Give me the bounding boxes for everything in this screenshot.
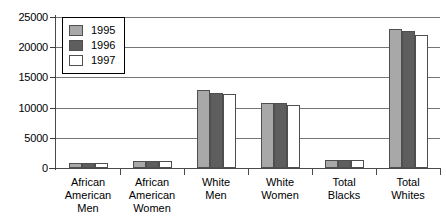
x-axis-category-label-line: White xyxy=(248,176,312,189)
x-axis-category-labels: AfricanAmericanMenAfricanAmericanWomenWh… xyxy=(0,176,446,222)
chart-legend: 199519961997 xyxy=(62,17,125,74)
bar-group xyxy=(261,17,300,168)
x-axis-category-label-line: Total xyxy=(312,176,376,189)
y-axis-tick-mark xyxy=(50,17,56,18)
legend-swatch-1997 xyxy=(69,55,83,66)
bar xyxy=(69,163,82,168)
x-axis-tick-mark xyxy=(184,169,185,175)
x-axis-category-label-line: Men xyxy=(184,189,248,202)
bar-group xyxy=(389,17,428,168)
x-axis-category-label: TotalBlacks xyxy=(312,176,376,202)
legend-item-label: 1996 xyxy=(91,40,115,51)
y-axis-tick-mark xyxy=(50,138,56,139)
bar xyxy=(261,103,274,168)
bar-group xyxy=(197,17,236,168)
x-axis-tick-mark xyxy=(312,169,313,175)
y-axis-tick-label: 25000 xyxy=(0,12,48,23)
x-axis-category-label-line: Total xyxy=(376,176,440,189)
y-axis-tick-mark xyxy=(50,47,56,48)
bar xyxy=(287,105,300,168)
bar-group xyxy=(133,17,172,168)
x-axis-tick-mark xyxy=(248,169,249,175)
bar xyxy=(415,35,428,168)
x-axis-category-label-line: American xyxy=(56,189,120,202)
bar xyxy=(210,93,223,169)
legend-item-label: 1997 xyxy=(91,55,115,66)
bar xyxy=(133,161,146,168)
y-axis-tick-label: 5000 xyxy=(0,132,48,143)
y-axis-tick-mark xyxy=(50,77,56,78)
x-axis-category-label: WhiteWomen xyxy=(248,176,312,202)
legend-item-label: 1995 xyxy=(91,25,115,36)
bar xyxy=(338,160,351,168)
bar xyxy=(351,160,364,168)
bar xyxy=(389,29,402,168)
bar xyxy=(223,94,236,168)
x-axis-tick-mark xyxy=(376,169,377,175)
legend-swatch-1995 xyxy=(69,25,83,36)
bar xyxy=(95,163,108,168)
bar xyxy=(197,90,210,168)
x-axis-category-label: AfricanAmericanMen xyxy=(56,176,120,215)
bar xyxy=(325,160,338,168)
legend-item: 1996 xyxy=(69,38,115,53)
x-axis-category-label: AfricanAmericanWomen xyxy=(120,176,184,215)
x-axis-category-label-line: African xyxy=(56,176,120,189)
bar-group xyxy=(325,17,364,168)
x-axis-category-label-line: American xyxy=(120,189,184,202)
x-axis-category-label-line: White xyxy=(184,176,248,189)
legend-swatch-1996 xyxy=(69,40,83,51)
x-axis-tick-mark xyxy=(440,169,441,175)
bar xyxy=(82,163,95,168)
y-axis-tick-label: 10000 xyxy=(0,102,48,113)
bar xyxy=(274,103,287,168)
x-axis-category-label-line: Men xyxy=(56,202,120,215)
x-axis-category-label-line: Women xyxy=(248,189,312,202)
x-axis-category-label: TotalWhites xyxy=(376,176,440,202)
y-axis-tick-label: 20000 xyxy=(0,42,48,53)
x-axis-category-label-line: Whites xyxy=(376,189,440,202)
bar xyxy=(159,161,172,168)
x-axis-line xyxy=(49,168,441,169)
y-axis-tick-label: 0 xyxy=(0,163,48,174)
x-axis-category-label-line: Women xyxy=(120,202,184,215)
legend-item: 1995 xyxy=(69,23,115,38)
x-axis-category-label: WhiteMen xyxy=(184,176,248,202)
legend-item: 1997 xyxy=(69,53,115,68)
y-axis-tick-mark xyxy=(50,168,56,169)
x-axis-tick-mark xyxy=(120,169,121,175)
bar-chart: 0500010000150002000025000 AfricanAmerica… xyxy=(0,0,446,222)
y-axis-tick-label: 15000 xyxy=(0,72,48,83)
bar xyxy=(146,161,159,168)
y-axis-tick-mark xyxy=(50,108,56,109)
x-axis-category-label-line: African xyxy=(120,176,184,189)
x-axis-category-label-line: Blacks xyxy=(312,189,376,202)
bar xyxy=(402,31,415,168)
